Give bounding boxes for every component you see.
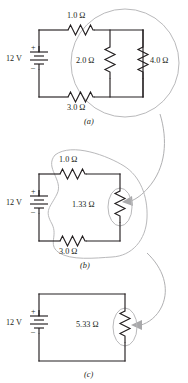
panel-b-caption: (b) [80,261,90,270]
arrow-a-to-b-path [131,114,164,201]
resistor-b-3-0-ohm [60,236,87,246]
resistor-a-3-0-ohm [68,92,95,102]
resistor-c-5-33-ohm-label: 5.33 Ω [76,320,98,329]
battery-c-label: 12 V [6,318,22,327]
battery-b-plus-sign: + [31,187,36,196]
panel-c-caption: (c) [84,370,94,379]
battery-c-plus-sign: + [31,307,36,316]
resistor-b-1-0-ohm-label: 1.0 Ω [59,155,77,164]
battery-b-label: 12 V [6,198,22,207]
circuit-reduction-figure: 12 V + – 1.0 Ω 2.0 Ω 4.0 Ω 3.0 Ω (a) [0,0,188,383]
panel-a-caption: (a) [84,117,94,126]
resistor-b-3-0-ohm-label: 3.0 Ω [59,247,77,256]
resistor-b-1-33-ohm [115,191,125,223]
resistor-b-1-33-ohm-label: 1.33 Ω [72,200,94,209]
resistor-b-1-0-ohm [60,169,87,179]
resistor-a-3-0-ohm-label: 3.0 Ω [67,103,85,112]
resistor-a-2-0-ohm-label: 2.0 Ω [76,56,94,65]
panel-b: 12 V + – 1.0 Ω 1.33 Ω 3.0 Ω (b) [6,150,147,270]
circuit-diagram-canvas: 12 V + – 1.0 Ω 2.0 Ω 4.0 Ω 3.0 Ω (a) [0,0,188,383]
resistor-c-5-33-ohm [120,311,130,343]
resistor-a-1-0-ohm [68,25,95,35]
arrow-b-to-c-path [141,253,165,325]
panel-a: 12 V + – 1.0 Ω 2.0 Ω 4.0 Ω 3.0 Ω (a) [6,9,179,126]
resistor-a-4-0-ohm-label: 4.0 Ω [150,56,168,65]
battery-a-label: 12 V [6,54,22,63]
battery-a-plus-sign: + [31,43,36,52]
resistor-a-1-0-ohm-label: 1.0 Ω [67,11,85,20]
resistor-a-2-0-ohm [105,47,115,79]
panel-c: 12 V + – 5.33 Ω (c) [6,294,137,379]
